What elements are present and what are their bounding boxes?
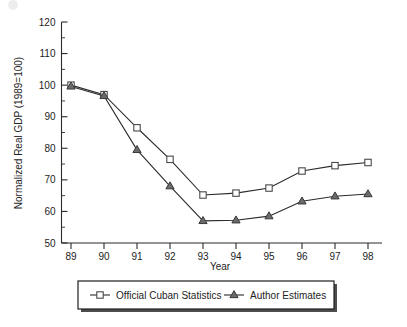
gdp-line-chart: 1201101009080706050 89909192939495969798… [0,0,407,327]
data-point-square [299,168,305,174]
y-tick-label: 60 [44,206,56,217]
x-tick-label: 94 [230,251,242,262]
y-tick-label: 50 [44,238,56,249]
data-point-square [233,190,239,196]
legend-label: Author Estimates [250,290,326,301]
chart-figure: 1201101009080706050 89909192939495969798… [0,0,407,327]
y-tick-label: 100 [39,80,56,91]
chart-legend: Official Cuban StatisticsAuthor Estimate… [78,281,337,312]
data-point-square [365,159,371,165]
x-tick-label: 90 [98,251,110,262]
data-point-square [134,125,140,131]
y-tick-label: 70 [44,174,56,185]
data-point-square [266,185,272,191]
x-tick-label: 89 [65,251,77,262]
data-point-square [167,156,173,162]
y-tick-label: 90 [44,111,56,122]
y-axis-title: Normalized Real GDP (1989=100) [13,57,24,209]
data-point-square [200,192,206,198]
y-tick-label: 80 [44,143,56,154]
x-tick-label: 97 [329,251,341,262]
legend-marker-square [97,292,103,298]
data-point-square [332,162,338,168]
x-axis-title: Year [210,261,231,272]
legend-label: Official Cuban Statistics [116,290,221,301]
x-tick-label: 91 [131,251,143,262]
x-tick-label: 98 [362,251,374,262]
x-tick-label: 93 [197,251,209,262]
x-tick-label: 96 [296,251,308,262]
y-tick-label: 120 [39,17,56,28]
y-tick-label: 110 [40,48,56,59]
x-tick-label: 92 [164,251,176,262]
scan-artifact [8,0,18,10]
x-tick-label: 95 [263,251,275,262]
